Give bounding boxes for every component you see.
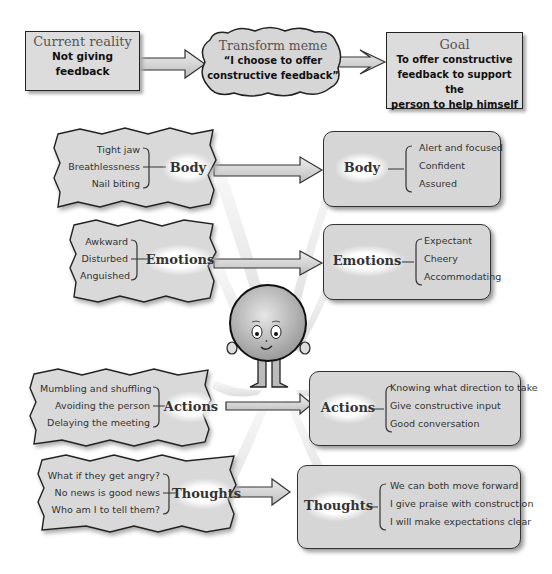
goal-line-1: To offer constructive (387, 52, 522, 67)
transform-meme-title: Transform meme (206, 38, 340, 53)
right-body-box: Body Alert and focused Confident Assured (323, 131, 501, 207)
left-actions-item-3: Delaying the meeting (40, 415, 150, 431)
left-actions-item-1: Mumbling and shuffling (40, 381, 150, 397)
top-arrow-1 (139, 50, 205, 78)
right-actions-item-2: Give constructive input (390, 398, 501, 414)
right-thoughts-item-3: I will make expectations clear (390, 514, 531, 530)
brace-icon (366, 480, 388, 534)
right-actions-item-1: Knowing what direction to take (390, 380, 538, 396)
transform-meme-text: Transform meme “I choose to offer constr… (206, 38, 340, 83)
left-emotions-item-2: Disturbed (80, 251, 128, 267)
left-thoughts-label: Thoughts (172, 478, 236, 510)
current-reality-line-2: feedback (26, 64, 139, 79)
right-actions-item-3: Good conversation (390, 416, 479, 432)
goal-line-2: feedback to support the (387, 67, 522, 97)
brace-icon (386, 142, 416, 196)
right-actions-box: Actions Knowing what direction to take G… (309, 371, 521, 446)
transform-meme-line-1: “I choose to offer (206, 53, 340, 68)
transform-meme-line-2: constructive feedback” (206, 68, 340, 83)
right-body-label: Body (334, 152, 390, 184)
right-actions-label: Actions (318, 392, 378, 424)
left-thoughts-group: What if they get angry? No news is good … (46, 468, 232, 520)
right-body-item-3: Assured (419, 176, 457, 192)
current-reality-line-1: Not giving (26, 49, 139, 64)
left-emotions-label: Emotions (144, 244, 216, 276)
left-thoughts-item-1: What if they get angry? (46, 468, 160, 484)
left-actions-item-2: Avoiding the person (40, 398, 150, 414)
right-emotions-box: Emotions Expectant Cheery Accommodating (323, 224, 491, 300)
goal-line-3: person to help himself (387, 97, 522, 112)
left-body-item-1: Tight jaw (62, 142, 140, 158)
left-body-label: Body (162, 152, 214, 184)
right-body-item-1: Alert and focused (419, 140, 503, 156)
right-thoughts-item-2: I give praise with construction (390, 496, 533, 512)
left-body-group: Tight jaw Breathlessness Nail biting Bod… (62, 142, 212, 194)
right-emotions-item-2: Cheery (424, 251, 458, 267)
goal-box: Goal To offer constructive feedback to s… (386, 32, 523, 109)
left-emotions-item-3: Anguished (80, 268, 128, 284)
left-thoughts-item-3: Who am I to tell them? (46, 502, 160, 518)
right-emotions-label: Emotions (328, 245, 406, 277)
right-thoughts-label: Thoughts (304, 490, 370, 522)
arrow-emotions (214, 251, 322, 275)
left-thoughts-item-2: No news is good news (46, 485, 160, 501)
character-figure (227, 285, 310, 387)
current-reality-title: Current reality (26, 34, 139, 49)
right-body-item-2: Confident (419, 158, 465, 174)
left-body-item-3: Nail biting (62, 176, 140, 192)
arrow-actions (226, 394, 312, 414)
left-emotions-group: Awkward Disturbed Anguished Emotions (80, 234, 214, 286)
arrow-body (214, 157, 322, 183)
right-thoughts-box: Thoughts We can both move forward I give… (297, 465, 521, 549)
left-emotions-item-1: Awkward (80, 234, 128, 250)
left-actions-group: Mumbling and shuffling Avoiding the pers… (40, 381, 208, 433)
right-emotions-item-3: Accommodating (424, 269, 501, 285)
left-actions-label: Actions (162, 391, 220, 423)
current-reality-box: Current reality Not giving feedback (25, 31, 140, 91)
goal-title: Goal (387, 37, 522, 52)
brace-icon (400, 235, 424, 289)
left-body-item-2: Breathlessness (62, 159, 140, 175)
right-emotions-item-1: Expectant (424, 233, 472, 249)
right-thoughts-item-1: We can both move forward (390, 478, 518, 494)
